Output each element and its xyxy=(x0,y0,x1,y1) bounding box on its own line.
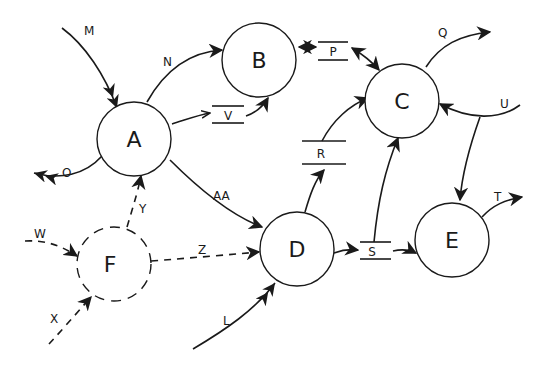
flow-r-to-c xyxy=(322,98,368,141)
node-d: D xyxy=(260,212,334,286)
flow-m xyxy=(62,28,117,108)
store-r: R xyxy=(302,141,346,164)
flow-label-aa: AA xyxy=(213,189,231,203)
flow-a-to-v xyxy=(172,113,210,124)
flow-l xyxy=(193,283,275,349)
node-c: C xyxy=(365,64,439,138)
store-p-label: P xyxy=(329,45,336,59)
flow-n xyxy=(147,50,222,102)
store-s-label: S xyxy=(368,245,376,259)
node-b: B xyxy=(222,23,296,97)
node-b-label: B xyxy=(251,48,266,73)
store-p: P xyxy=(318,42,348,60)
store-v-label: V xyxy=(224,109,233,123)
flow-label-w: W xyxy=(34,227,46,241)
flow-q xyxy=(426,32,490,67)
flow-s-to-e xyxy=(393,250,416,253)
node-e: E xyxy=(415,203,489,277)
flow-label-z: Z xyxy=(198,243,206,257)
flow-d-to-s xyxy=(334,250,358,253)
node-d-label: D xyxy=(289,237,306,262)
flow-label-m: M xyxy=(84,24,94,38)
node-f: F xyxy=(77,227,151,301)
node-f-label: F xyxy=(104,252,117,277)
flow-label-y: Y xyxy=(138,202,147,216)
flow-label-o: O xyxy=(62,166,71,180)
flow-p-c xyxy=(352,48,379,70)
flow-v-to-b xyxy=(246,98,268,116)
flow-label-t: T xyxy=(493,190,502,204)
flow-label-x: X xyxy=(50,312,58,326)
flow-label-l: L xyxy=(223,314,230,328)
flow-label-n: N xyxy=(163,55,172,69)
node-c-label: C xyxy=(394,89,409,114)
flow-label-q: Q xyxy=(438,26,447,40)
node-a-label: A xyxy=(126,127,141,152)
store-s: S xyxy=(360,242,391,259)
node-a: A xyxy=(97,102,171,176)
store-v: V xyxy=(212,106,244,123)
flow-w xyxy=(25,241,77,256)
data-flow-diagram: A B C D E F P V xyxy=(0,0,550,369)
store-r-label: R xyxy=(317,147,325,161)
flow-u-to-e xyxy=(460,117,480,200)
node-e-label: E xyxy=(445,228,459,253)
flow-d-to-r xyxy=(305,170,324,212)
flow-t xyxy=(482,197,522,217)
flow-label-u: U xyxy=(500,97,509,111)
flow-s-to-c xyxy=(374,138,398,242)
